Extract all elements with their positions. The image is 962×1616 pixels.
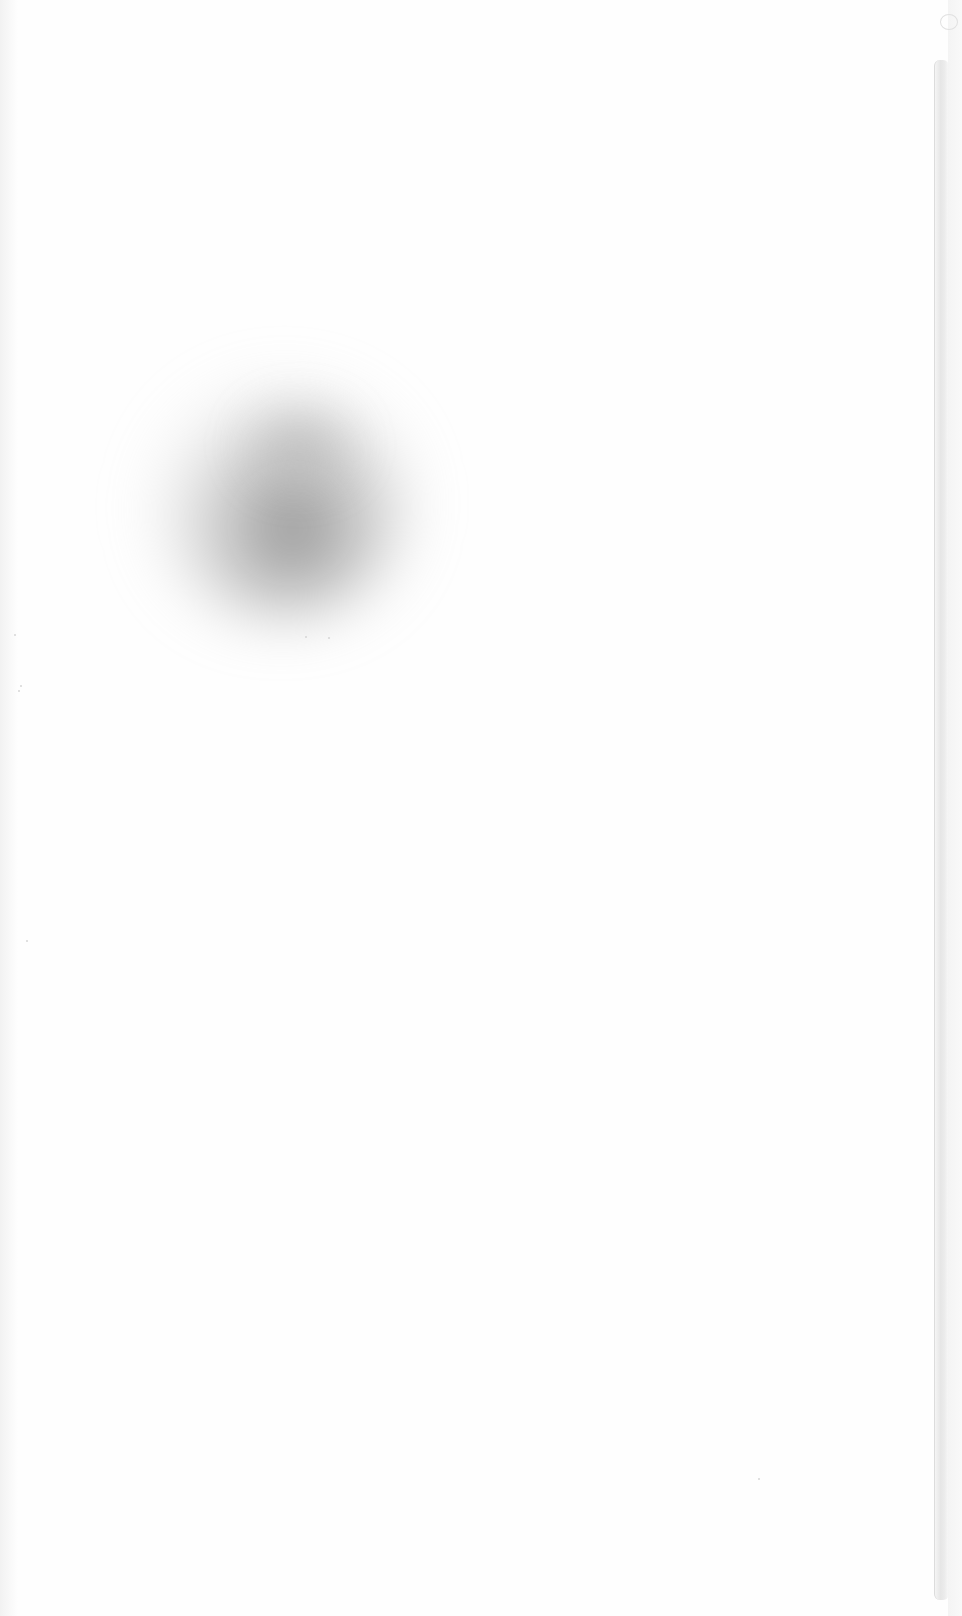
page-margin-right xyxy=(948,0,962,1616)
left-edge-shadow xyxy=(0,0,18,1616)
page-body-text xyxy=(60,60,882,1556)
dust-speck xyxy=(26,940,28,942)
dust-speck xyxy=(14,634,16,636)
scanned-page xyxy=(0,0,962,1616)
dust-speck xyxy=(18,690,20,692)
corner-mark xyxy=(940,14,958,30)
dust-speck xyxy=(20,685,22,687)
binding-edge-shadow xyxy=(934,60,949,1600)
